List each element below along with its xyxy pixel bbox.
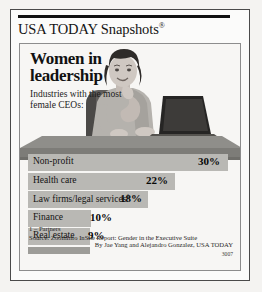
registered-trademark-icon: ® [159, 21, 165, 30]
desk-base-bar [28, 247, 90, 254]
bar-label-health-care: Health care [33, 175, 77, 185]
subheadline: Industries with the most female CEOs: [30, 89, 138, 111]
masthead-title-text: USA TODAY Snapshots [18, 21, 159, 37]
byline: By Jae Yang and Alejandro Gonzalez, USA … [95, 241, 233, 248]
bar-label-finance: Finance [33, 212, 63, 222]
bar-row: Law firms/legal services1 18% [20, 191, 241, 208]
headline-line-1: Women in [30, 49, 102, 68]
bar-value-finance: 10% [90, 211, 112, 223]
bar-label-non-profit: Non-profit [33, 156, 74, 166]
masthead-title: USA TODAY Snapshots® [18, 21, 242, 38]
chart-panel: Women in leadership Industries with the … [19, 43, 241, 271]
masthead: USA TODAY Snapshots® [18, 15, 242, 38]
bar-value-non-profit: 30% [198, 155, 220, 167]
bar-label-law-firms-text: Law firms/legal services [33, 194, 126, 204]
headline-block: Women in leadership Industries with the … [30, 50, 138, 111]
bar-value-health-care: 22% [146, 174, 168, 186]
masthead-rule [18, 15, 230, 18]
page-title: Women in leadership [30, 50, 138, 85]
footnote-partners: 1 – Partners [29, 224, 239, 234]
bar-row: Non-profit 30% [20, 154, 241, 171]
credit-block: By Jae Yang and Alejandro Gonzalez, USA … [95, 240, 233, 258]
bar-label-law-firms: Law firms/legal services1 [33, 193, 129, 204]
bar-row: Health care 22% [20, 173, 241, 190]
bar-value-law-firms: 18% [120, 192, 142, 204]
headline-line-2: leadership [30, 66, 103, 85]
snapshot-graphic: USA TODAY Snapshots® Women in leadership… [0, 0, 262, 292]
graphic-code: 3007 [95, 250, 233, 258]
